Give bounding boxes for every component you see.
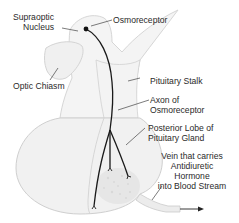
label-text: Osmoreceptor xyxy=(113,15,167,25)
label-axon-of-osmoreceptor: Axon of Osmoreceptor xyxy=(150,95,204,115)
label-posterior-lobe: Posterior Lobe of Pituitary Gland xyxy=(148,123,213,143)
label-line: Vein that carries xyxy=(148,151,236,161)
pituitary-stalk-shape xyxy=(96,60,140,118)
label-line: Nucleus xyxy=(10,22,54,32)
blood-stream-arrow xyxy=(180,207,204,212)
label-line: Hormone xyxy=(148,171,236,181)
label-line: Antidiuretic xyxy=(148,161,236,171)
label-line: Supraoptic xyxy=(10,12,54,22)
label-text: Optic Chiasm xyxy=(13,81,65,91)
label-pituitary-stalk: Pituitary Stalk xyxy=(150,76,203,86)
label-optic-chiasm: Optic Chiasm xyxy=(13,81,65,91)
label-line: Pituitary Gland xyxy=(148,133,213,143)
label-vein: Vein that carries Antidiuretic Hormone i… xyxy=(148,151,236,191)
label-text: Pituitary Stalk xyxy=(150,76,203,86)
label-line: into Blood Stream xyxy=(148,181,236,191)
label-supraoptic-nucleus: Supraoptic Nucleus xyxy=(10,12,54,32)
label-osmoreceptor: Osmoreceptor xyxy=(113,15,167,25)
label-line: Axon of xyxy=(150,95,204,105)
label-line: Osmoreceptor xyxy=(150,105,204,115)
vein-shape xyxy=(136,194,180,212)
posterior-lobe-texture xyxy=(96,168,140,204)
osmoreceptor-cell-body xyxy=(84,27,89,32)
label-line: Posterior Lobe of xyxy=(148,123,213,133)
